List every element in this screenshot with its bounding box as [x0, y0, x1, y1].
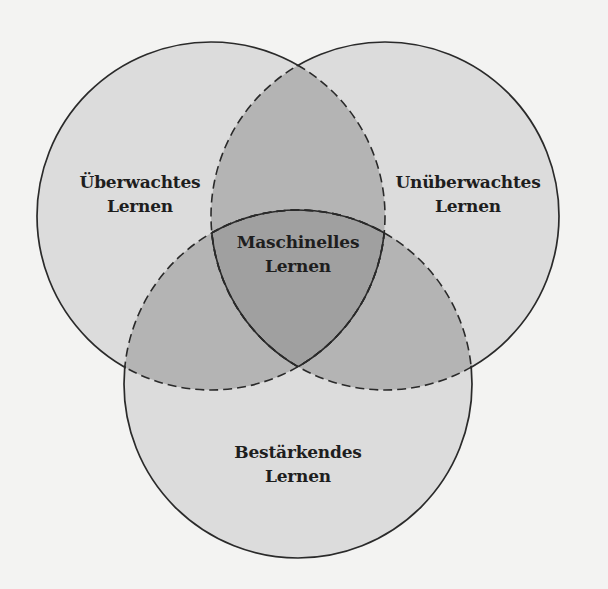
label-machine-learning: Maschinelles Lernen	[228, 230, 368, 278]
label-reinforcement-line2: Lernen	[218, 464, 378, 488]
label-unsupervised-line1: Unüberwachtes	[378, 170, 558, 194]
label-unsupervised-learning: Unüberwachtes Lernen	[378, 170, 558, 218]
label-reinforcement-line1: Bestärkendes	[218, 440, 378, 464]
label-reinforcement-learning: Bestärkendes Lernen	[218, 440, 378, 488]
label-machine-line1: Maschinelles	[228, 230, 368, 254]
label-unsupervised-line2: Lernen	[378, 194, 558, 218]
venn-diagram	[0, 0, 608, 589]
label-supervised-line2: Lernen	[60, 194, 220, 218]
label-machine-line2: Lernen	[228, 254, 368, 278]
label-supervised-line1: Überwachtes	[60, 170, 220, 194]
label-supervised-learning: Überwachtes Lernen	[60, 170, 220, 218]
